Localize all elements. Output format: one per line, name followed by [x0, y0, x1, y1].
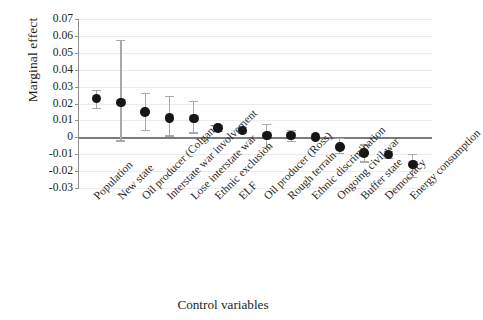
x-tick-label: ELF [237, 180, 259, 202]
x-axis-title: Control variables [0, 297, 446, 313]
